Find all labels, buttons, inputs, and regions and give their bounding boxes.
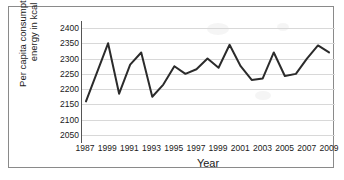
x-axis-tick-label: 2005 bbox=[275, 143, 294, 154]
y-axis-tick-label: 2400 bbox=[60, 24, 79, 33]
y-axis-title-line-1: Per capita consumption of bbox=[17, 0, 28, 87]
y-axis-tick-label: 2100 bbox=[60, 115, 79, 124]
y-axis-tick-label: 2300 bbox=[60, 54, 79, 63]
x-axis-tick-label: 2001 bbox=[231, 143, 250, 154]
x-axis-tick-labels: 1987199919911993199519971999200120032005… bbox=[81, 143, 343, 155]
y-axis-tick-labels: 24002350230022502200215021002050 bbox=[45, 21, 79, 139]
x-axis-tick-label: 2009 bbox=[320, 143, 339, 154]
y-axis-tick-label: 2050 bbox=[60, 131, 79, 140]
y-axis-title-line-2: energy in kcal bbox=[28, 3, 39, 62]
x-axis-tick-label: 1987 bbox=[76, 143, 95, 154]
x-axis-tick-label: 1999 bbox=[209, 143, 228, 154]
y-axis-tick-label: 2200 bbox=[60, 85, 79, 94]
x-axis-tick-label: 2003 bbox=[253, 143, 272, 154]
x-axis-tick-label: 1991 bbox=[120, 143, 139, 154]
x-axis-tick-label: 1995 bbox=[164, 143, 183, 154]
chart-screenshot: Per capita consumption of energy in kcal… bbox=[0, 0, 344, 180]
x-axis-title: Year bbox=[81, 157, 335, 169]
plot-area bbox=[81, 21, 335, 143]
x-axis-tick-label: 2007 bbox=[297, 143, 316, 154]
x-axis-tick-label: 1993 bbox=[142, 143, 161, 154]
y-axis-tick-label: 2250 bbox=[60, 69, 79, 78]
x-axis-tick-label: 1997 bbox=[186, 143, 205, 154]
data-series-line bbox=[82, 21, 335, 143]
y-axis-tick-label: 2350 bbox=[60, 39, 79, 48]
y-axis-tick-label: 2150 bbox=[60, 100, 79, 109]
figure-frame: Per capita consumption of energy in kcal… bbox=[8, 6, 334, 168]
x-axis-tick-label: 1999 bbox=[98, 143, 117, 154]
y-axis-title: Per capita consumption of energy in kcal bbox=[11, 0, 45, 96]
